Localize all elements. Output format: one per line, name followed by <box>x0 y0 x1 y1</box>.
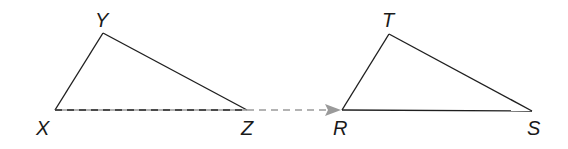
side-ts <box>389 34 532 111</box>
translation-diagram <box>0 0 568 149</box>
arrowhead-icon <box>325 104 341 116</box>
vertex-label-t: T <box>382 10 394 30</box>
side-yz <box>103 33 247 110</box>
vertex-label-y: Y <box>95 10 108 30</box>
side-rt <box>342 34 389 110</box>
vertex-label-s: S <box>527 118 540 138</box>
triangle-xyz <box>55 33 247 110</box>
translation-arrow <box>247 104 341 116</box>
vertex-label-z: Z <box>241 118 253 138</box>
side-rs <box>342 110 532 111</box>
vertex-label-x: X <box>36 118 49 138</box>
side-xy <box>55 33 103 110</box>
triangle-rst <box>342 34 532 111</box>
vertex-label-r: R <box>333 118 347 138</box>
